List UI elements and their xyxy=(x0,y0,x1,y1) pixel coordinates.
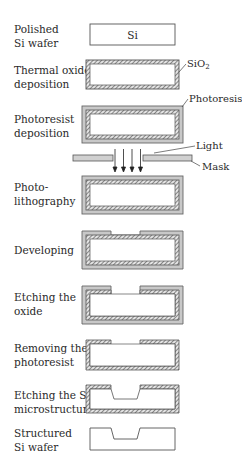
label-etch-si-2: microstructure xyxy=(14,403,94,415)
label-structured-2: Si wafer xyxy=(14,441,59,453)
label-polished-2: Si wafer xyxy=(14,37,59,49)
wafer-structured xyxy=(90,428,175,450)
wafer-oxide: SiO2 xyxy=(86,58,210,89)
label-etch-si-1: Etching the Si xyxy=(14,389,90,401)
label-litho-1: Photo- xyxy=(14,181,49,193)
label-oxide-1: Thermal oxide xyxy=(14,64,90,76)
label-remove-resist-2: photoresist xyxy=(14,356,75,368)
mask-leader-line xyxy=(191,161,200,166)
wafer-etch-oxide xyxy=(82,286,183,324)
light-label: Light xyxy=(196,140,223,151)
wafer-photolithography xyxy=(82,176,183,214)
wafer-photoresist: Photoresist xyxy=(82,93,242,143)
label-remove-resist-1: Removing the xyxy=(14,342,88,354)
mask-left xyxy=(73,155,113,161)
wafer-etch-si xyxy=(86,385,179,413)
sio2-leader-line xyxy=(179,64,186,72)
process-diagram: Polished Si wafer Thermal oxide depositi… xyxy=(0,0,242,474)
wafer-remove-resist xyxy=(86,340,179,370)
label-structured-1: Structured xyxy=(14,427,72,439)
label-litho-2: lithography xyxy=(14,195,76,207)
label-oxide-2: deposition xyxy=(14,78,70,90)
photoresist-label: Photoresist xyxy=(189,93,242,104)
si-label: Si xyxy=(127,29,138,41)
wafer-developing xyxy=(82,231,183,269)
light-leader-line xyxy=(154,146,195,153)
label-polished-1: Polished xyxy=(14,23,59,35)
mask-right xyxy=(143,155,192,161)
mask-and-light: Light Mask xyxy=(73,140,230,172)
photoresist-leader-line xyxy=(182,99,188,107)
label-resist-2: deposition xyxy=(14,127,70,139)
label-develop-1: Developing xyxy=(14,244,74,256)
sio2-label: SiO2 xyxy=(187,58,210,71)
label-etch-oxide-2: oxide xyxy=(14,305,43,317)
label-etch-oxide-1: Etching the xyxy=(14,291,76,303)
light-arrows xyxy=(113,149,143,172)
label-resist-1: Photoresist xyxy=(14,113,75,125)
mask-label: Mask xyxy=(202,161,230,172)
wafer-polished: Si xyxy=(90,24,175,45)
